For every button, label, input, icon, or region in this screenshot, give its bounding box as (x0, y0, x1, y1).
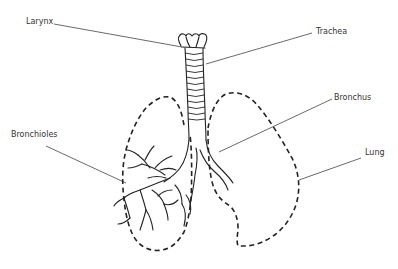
lung-label: Lung (365, 149, 385, 157)
trachea-label: Trachea (316, 28, 347, 36)
left-lung-outline (123, 97, 192, 251)
larynx-leader-line (54, 24, 182, 47)
larynx-shape (178, 34, 206, 48)
bronchioles-label: Bronchioles (11, 131, 57, 139)
lung-leader-line (299, 158, 361, 180)
bronchus-shape (164, 140, 233, 205)
bronchus-leader-line (219, 99, 332, 152)
trachea-shape (185, 48, 206, 140)
respiratory-illustration (0, 0, 398, 269)
bronchus-label: Bronchus (334, 94, 371, 102)
trachea-leader-line (206, 33, 312, 64)
respiratory-diagram: Larynx Trachea Bronchus Bronchioles Lung (0, 0, 398, 269)
bronchioles-leader-line (46, 146, 126, 183)
larynx-label: Larynx (26, 18, 53, 26)
bronchioles-shape (114, 146, 191, 230)
